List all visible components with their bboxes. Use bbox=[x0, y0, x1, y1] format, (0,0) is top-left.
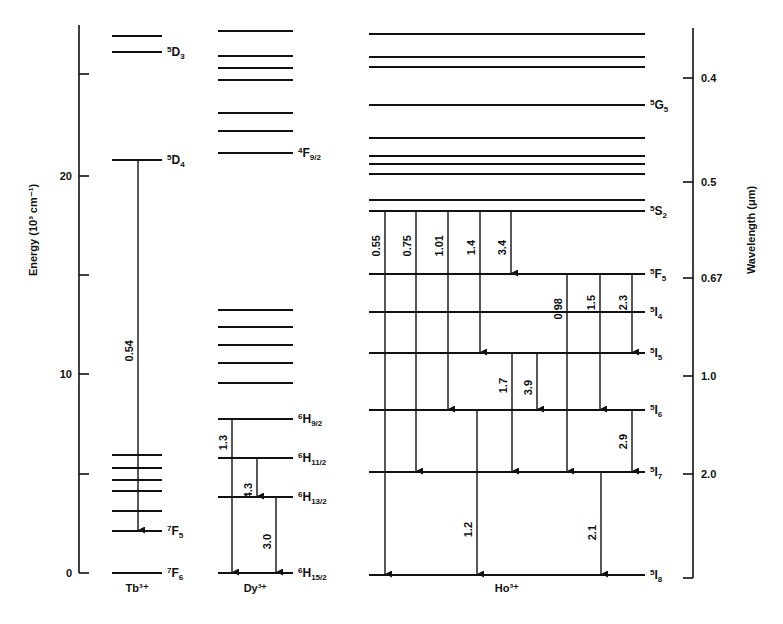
level-term-label: 5D4 bbox=[167, 153, 185, 169]
wavelength-tick-label: 0.67 bbox=[701, 272, 722, 284]
energy-axis-label: Energy (10³ cm⁻¹) bbox=[27, 184, 39, 277]
wavelength-axis: 0.40.50.671.02.0 bbox=[683, 28, 722, 578]
energy-tick-label: 10 bbox=[60, 368, 72, 380]
transition-wavelength-label: 1.01 bbox=[433, 235, 445, 256]
transition-wavelength-label: 3.9 bbox=[522, 380, 534, 395]
transition-wavelength-label: 0.55 bbox=[370, 235, 382, 256]
level-term-label: 5I5 bbox=[650, 346, 663, 362]
transition-wavelength-label: 3.0 bbox=[261, 534, 273, 549]
energy-tick-label: 20 bbox=[60, 170, 72, 182]
transition-wavelength-label: 2.3 bbox=[617, 295, 629, 310]
ion-name-label: Tb³⁺ bbox=[125, 582, 148, 594]
transition-wavelength-label: 1.7 bbox=[497, 378, 509, 393]
transition-wavelength-label: 3.4 bbox=[496, 239, 508, 255]
level-term-label: 5I4 bbox=[650, 305, 663, 321]
wavelength-tick-label: 0.4 bbox=[701, 72, 717, 84]
ion-group-0: 5D35D47F57F60.54Tb³⁺ bbox=[112, 36, 185, 594]
level-term-label: 7F6 bbox=[167, 566, 184, 582]
level-term-label: 5F5 bbox=[650, 267, 667, 283]
wavelength-tick-label: 0.5 bbox=[701, 176, 716, 188]
wavelength-tick-label: 1.0 bbox=[701, 370, 716, 382]
transition-wavelength-label: 0.75 bbox=[401, 235, 413, 256]
level-term-label: 5I7 bbox=[650, 465, 663, 481]
ion-name-label: Dy³⁺ bbox=[244, 582, 268, 594]
transition-wavelength-label: 1.5 bbox=[585, 295, 597, 310]
level-term-label: 5I6 bbox=[650, 403, 663, 419]
transition-wavelength-label: 0.98 bbox=[552, 298, 564, 319]
ion-name-label: Ho³⁺ bbox=[495, 582, 519, 594]
transition-wavelength-label: 2.9 bbox=[617, 434, 629, 449]
ion-group-2: 5G55S25F55I45I55I65I75I80.550.751.011.43… bbox=[369, 34, 669, 594]
level-term-label: 6H9/2 bbox=[298, 412, 323, 428]
level-term-label: 4F9/2 bbox=[298, 146, 321, 162]
level-term-label: 7F5 bbox=[167, 524, 184, 540]
transition-wavelength-label: 2.1 bbox=[586, 525, 598, 540]
level-term-label: 6H13/2 bbox=[298, 490, 327, 506]
transition-wavelength-label: 4.3 bbox=[242, 483, 254, 498]
energy-tick-label: 0 bbox=[66, 567, 72, 579]
energy-axis: 01020 bbox=[60, 25, 89, 579]
transition-wavelength-label: 1.2 bbox=[462, 522, 474, 537]
transition-wavelength-label: 1.4 bbox=[465, 239, 477, 255]
level-term-label: 5I8 bbox=[650, 568, 663, 584]
ion-group-1: 4F9/26H9/26H11/26H13/26H15/21.34.33.0Dy³… bbox=[217, 31, 327, 594]
level-term-label: 5D3 bbox=[167, 45, 185, 61]
wavelength-tick-label: 2.0 bbox=[701, 468, 716, 480]
ion-level-groups: 5D35D47F57F60.54Tb³⁺4F9/26H9/26H11/26H13… bbox=[112, 31, 669, 594]
level-term-label: 5G5 bbox=[650, 98, 669, 114]
level-term-label: 6H11/2 bbox=[298, 451, 327, 467]
level-term-label: 5S2 bbox=[650, 204, 667, 220]
energy-level-diagram: 01020 0.40.50.671.02.0 5D35D47F57F60.54T… bbox=[0, 0, 783, 624]
transition-wavelength-label: 1.3 bbox=[217, 435, 229, 450]
wavelength-axis-label: Wavelength (μm) bbox=[745, 186, 757, 275]
level-term-label: 6H15/2 bbox=[298, 566, 327, 582]
transition-wavelength-label: 0.54 bbox=[123, 339, 135, 361]
